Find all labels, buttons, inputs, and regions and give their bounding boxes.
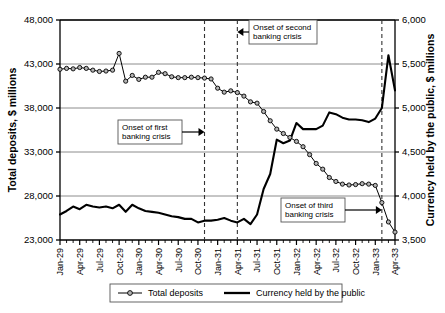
x-axis-tick-label: Jul-29	[95, 248, 105, 273]
data-point-total-deposits	[176, 76, 180, 80]
left-axis-tick-label: 33,000	[24, 146, 53, 157]
data-point-total-deposits	[229, 89, 233, 93]
data-point-total-deposits	[340, 182, 344, 186]
data-point-total-deposits	[110, 68, 114, 72]
data-point-total-deposits	[308, 153, 312, 157]
data-point-total-deposits	[124, 79, 128, 83]
data-point-total-deposits	[97, 69, 101, 73]
data-point-total-deposits	[130, 73, 134, 77]
dual-axis-line-chart: 23,00028,00033,00038,00043,00048,000Tota…	[0, 0, 445, 313]
x-axis-tick-label: Oct-31	[272, 248, 282, 275]
data-point-total-deposits	[202, 76, 206, 80]
x-axis-tick-label: Jan-30	[134, 248, 144, 276]
x-axis-tick-label: Jan-29	[55, 248, 65, 276]
right-axis-tick-label: 5,000	[402, 102, 426, 113]
legend-label-currency-held-by-the-public: Currency held by the public	[256, 288, 366, 298]
data-point-total-deposits	[255, 101, 259, 105]
right-axis-tick-label: 6,000	[402, 14, 426, 25]
data-point-total-deposits	[189, 75, 193, 79]
right-axis-tick-label: 4,500	[402, 146, 426, 157]
data-point-total-deposits	[367, 182, 371, 186]
left-axis-tick-label: 28,000	[24, 190, 53, 201]
left-axis-tick-label: 23,000	[24, 234, 53, 245]
data-point-total-deposits	[78, 65, 82, 69]
data-point-total-deposits	[321, 167, 325, 171]
x-axis-tick-label: Jan-31	[213, 248, 223, 276]
x-axis-tick-label: Jul-32	[331, 248, 341, 273]
x-axis-tick-label: Jan-33	[371, 248, 381, 276]
data-point-total-deposits	[196, 76, 200, 80]
data-point-total-deposits	[156, 70, 160, 74]
annotation-text-line2: banking crisis	[122, 132, 170, 141]
chart-container: 23,00028,00033,00038,00043,00048,000Tota…	[0, 0, 445, 313]
x-axis-tick-label: Jan-32	[292, 248, 302, 276]
data-point-total-deposits	[143, 75, 147, 79]
x-axis-tick-label: Oct-29	[115, 248, 125, 275]
data-point-total-deposits	[248, 100, 252, 104]
data-point-total-deposits	[281, 131, 285, 135]
data-point-total-deposits	[373, 183, 377, 187]
annotation-text-line1: Onset of second	[253, 23, 311, 32]
legend-marker-total-deposits	[128, 291, 133, 296]
left-axis-tick-label: 43,000	[24, 58, 53, 69]
data-point-total-deposits	[104, 69, 108, 73]
data-point-total-deposits	[268, 119, 272, 123]
data-point-total-deposits	[386, 220, 390, 224]
data-point-total-deposits	[262, 109, 266, 113]
annotation-text-line1: Onset of first	[122, 123, 168, 132]
data-point-total-deposits	[209, 77, 213, 81]
data-point-total-deposits	[347, 183, 351, 187]
left-axis-tick-label: 38,000	[24, 102, 53, 113]
x-axis-tick-label: Apr-29	[75, 248, 85, 275]
legend-label-total-deposits: Total deposits	[148, 288, 204, 298]
data-point-total-deposits	[294, 139, 298, 143]
annotation-second-crisis: Onset of secondbanking crisis	[237, 20, 317, 44]
data-point-total-deposits	[117, 51, 121, 55]
x-axis-tick-label: Oct-30	[193, 248, 203, 275]
left-axis-tick-label: 48,000	[24, 14, 53, 25]
x-axis-tick-label: Apr-31	[233, 248, 243, 275]
data-point-total-deposits	[301, 145, 305, 149]
data-point-total-deposits	[170, 75, 174, 79]
x-axis-tick-label: Oct-32	[351, 248, 361, 275]
left-axis-title: Total deposits, $ millions	[6, 68, 18, 193]
x-axis-tick-label: Apr-33	[390, 248, 400, 275]
annotation-text-line2: banking crisis	[285, 210, 333, 219]
annotation-text-line2: banking crisis	[253, 32, 301, 41]
data-point-total-deposits	[64, 66, 68, 70]
data-point-total-deposits	[235, 91, 239, 95]
data-point-total-deposits	[393, 230, 397, 234]
data-point-total-deposits	[84, 66, 88, 70]
data-point-total-deposits	[163, 72, 167, 76]
right-axis-tick-label: 4,000	[402, 190, 426, 201]
data-point-total-deposits	[288, 135, 292, 139]
data-point-total-deposits	[58, 67, 62, 71]
data-point-total-deposits	[353, 182, 357, 186]
data-point-total-deposits	[327, 175, 331, 179]
x-axis-tick-label: Apr-30	[154, 248, 164, 275]
data-point-total-deposits	[216, 86, 220, 90]
right-axis-tick-label: 5,500	[402, 58, 426, 69]
data-point-total-deposits	[71, 67, 75, 71]
data-point-total-deposits	[314, 161, 318, 165]
data-point-total-deposits	[380, 201, 384, 205]
data-point-total-deposits	[91, 68, 95, 72]
data-point-total-deposits	[275, 127, 279, 131]
x-axis-tick-label: Apr-32	[312, 248, 322, 275]
data-point-total-deposits	[137, 77, 141, 81]
data-point-total-deposits	[222, 90, 226, 94]
data-point-total-deposits	[150, 75, 154, 79]
x-axis-tick-label: Jul-30	[174, 248, 184, 273]
data-point-total-deposits	[334, 179, 338, 183]
right-axis-title: Currency held by the public, $ millions	[424, 34, 436, 227]
annotation-text-line1: Onset of third	[285, 201, 333, 210]
right-axis-tick-label: 3,500	[402, 234, 426, 245]
data-point-total-deposits	[183, 76, 187, 80]
x-axis-tick-label: Jul-31	[252, 248, 262, 273]
data-point-total-deposits	[360, 182, 364, 186]
data-point-total-deposits	[242, 94, 246, 98]
